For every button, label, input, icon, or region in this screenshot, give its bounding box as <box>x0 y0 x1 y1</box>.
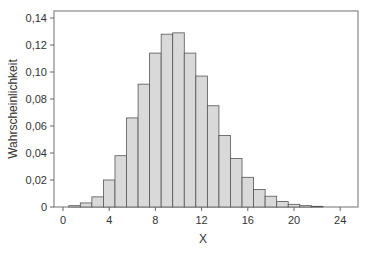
y-tick-label: 0,04 <box>26 147 47 159</box>
histogram-bar <box>288 204 300 207</box>
x-tick-label: 20 <box>288 214 300 226</box>
y-tick-label: 0,06 <box>26 120 47 132</box>
x-tick-label: 8 <box>152 214 158 226</box>
x-tick-label: 16 <box>242 214 254 226</box>
histogram-bar <box>219 135 231 207</box>
y-axis-title: Wahrscheinlichkeit <box>6 59 20 159</box>
y-tick-label: 0,10 <box>26 66 47 78</box>
y-tick-label: 0,08 <box>26 93 47 105</box>
x-axis: 04812162024 <box>60 207 346 226</box>
histogram-bar <box>173 33 185 207</box>
histogram-bar <box>277 202 289 207</box>
histogram-bar <box>92 197 104 207</box>
histogram-bar <box>184 53 196 207</box>
histogram-bar <box>138 84 150 207</box>
y-tick-label: 0 <box>41 201 47 213</box>
histogram-bar <box>115 156 127 207</box>
histogram-bar <box>150 53 162 207</box>
x-tick-label: 24 <box>334 214 346 226</box>
histogram-bar <box>265 196 277 207</box>
histogram-bar <box>161 34 173 207</box>
x-axis-title: X <box>199 232 207 246</box>
histogram-bar <box>242 177 254 207</box>
x-tick-label: 12 <box>195 214 207 226</box>
x-tick-label: 4 <box>106 214 112 226</box>
y-tick-label: 0,02 <box>26 174 47 186</box>
histogram-bar <box>196 76 208 207</box>
histogram-bar <box>103 180 115 207</box>
histogram-bar <box>311 206 323 207</box>
histogram-bar <box>207 106 219 207</box>
histogram-bar <box>300 206 312 207</box>
histogram-bar <box>254 189 266 207</box>
histogram-bar <box>80 203 92 207</box>
histogram-bar <box>127 118 139 207</box>
x-tick-label: 0 <box>60 214 66 226</box>
histogram-bar <box>69 206 81 207</box>
histogram-chart: 00,020,040,060,080,100,120,14 0481216202… <box>0 0 370 254</box>
y-tick-label: 0,12 <box>26 39 47 51</box>
y-axis: 00,020,040,060,080,100,120,14 <box>26 12 54 213</box>
y-tick-label: 0,14 <box>26 12 47 24</box>
histogram-bar <box>230 158 242 207</box>
